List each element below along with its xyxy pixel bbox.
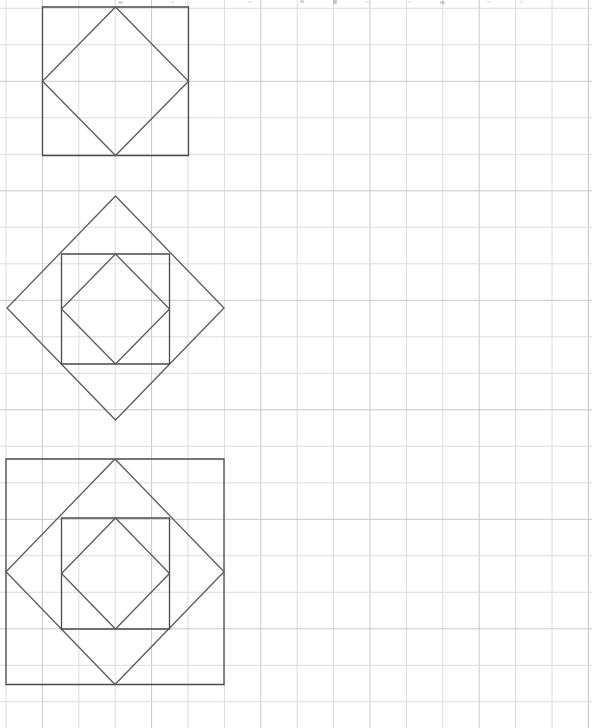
figure-3-second-diamond bbox=[6, 459, 224, 685]
worksheet-page bbox=[0, 0, 592, 728]
figure-3-innermost-diamond bbox=[62, 518, 170, 629]
figure-1-inscribed-diamond bbox=[43, 7, 189, 156]
figure-2-outer-diamond bbox=[7, 196, 224, 420]
figure-1-outer-square bbox=[43, 7, 189, 156]
figure-3-third-square bbox=[62, 518, 170, 629]
figure-2-diamond-with-inscribed-square-and-diamond bbox=[7, 196, 224, 420]
figure-2-innermost-diamond bbox=[62, 254, 170, 364]
figure-1-square-with-inscribed-diamond bbox=[43, 7, 189, 156]
figure-2-inscribed-square bbox=[62, 254, 170, 364]
figure-3-outer-square bbox=[6, 459, 224, 685]
figure-3-square-with-three-nested-inscribed-shapes bbox=[6, 459, 224, 685]
drawn-figures bbox=[0, 0, 592, 728]
